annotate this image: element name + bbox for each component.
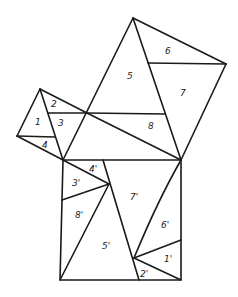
piece-labels: 1 2 3 4 5 6 7 8 1' 2' 3' 4' 5' 6' 7' 8' <box>35 46 186 279</box>
label-2: 2 <box>51 99 57 109</box>
label-1: 1 <box>35 117 41 127</box>
label-8-prime: 8' <box>75 210 83 220</box>
label-3-prime: 3' <box>72 178 80 188</box>
label-5-prime: 5' <box>102 241 110 251</box>
edge <box>17 136 55 137</box>
label-2-prime: 2' <box>140 269 148 279</box>
label-4-prime: 4' <box>89 164 97 174</box>
label-6-prime: 6' <box>161 220 169 230</box>
medium-square-pieces <box>63 18 226 160</box>
edge <box>133 18 181 160</box>
edge <box>148 63 226 64</box>
label-1-prime: 1' <box>164 254 172 264</box>
label-8: 8 <box>148 121 154 131</box>
label-7-prime: 7' <box>130 192 138 202</box>
edge <box>63 18 133 160</box>
edge <box>87 113 165 114</box>
label-5: 5 <box>127 71 133 81</box>
edge <box>17 89 40 136</box>
edge <box>103 160 139 280</box>
pythagorean-dissection-diagram: 1 2 3 4 5 6 7 8 1' 2' 3' 4' 5' 6' 7' 8' <box>0 0 238 297</box>
label-4: 4 <box>42 140 48 150</box>
label-3: 3 <box>58 118 64 128</box>
label-7: 7 <box>180 88 186 98</box>
edge <box>63 160 109 184</box>
edge <box>181 64 226 160</box>
label-6: 6 <box>165 46 171 56</box>
